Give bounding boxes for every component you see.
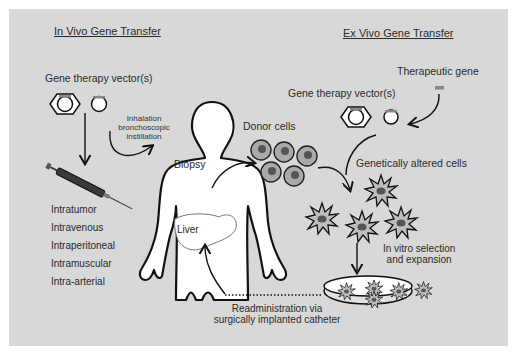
- altered-cells-icon: [306, 175, 417, 242]
- liposome-vector-icon: [92, 96, 107, 112]
- ex-vivo-vectors-label: Gene therapy vector(s): [288, 88, 395, 100]
- route-intraperitoneal: Intraperitoneal: [51, 240, 115, 251]
- ex-vivo-viral-vector-icon: [341, 107, 371, 127]
- inhalation-label: Inhalation bronchoscopic instillation: [118, 115, 170, 141]
- donor-cells-label: Donor cells: [243, 121, 296, 133]
- selection-label: In vitro selection and expansion: [383, 243, 455, 265]
- route-intramuscular: Intramuscular: [51, 258, 112, 269]
- readministration-label: Readministration via surgically implante…: [207, 303, 347, 325]
- liver-label: Liver: [177, 224, 199, 235]
- in-vivo-title: In Vivo Gene Transfer: [54, 25, 161, 37]
- route-intravenous: Intravenous: [51, 222, 103, 233]
- viral-vector-icon: [50, 94, 80, 114]
- gene-insertion-arrow: [410, 94, 439, 124]
- biopsy-label: Biopsy: [174, 159, 206, 171]
- ex-vivo-liposome-vector-icon: [384, 110, 398, 124]
- altered-cells-label: Genetically altered cells: [356, 158, 467, 170]
- in-vivo-vectors-label: Gene therapy vector(s): [45, 73, 152, 85]
- route-intratumor: Intratumor: [51, 204, 97, 215]
- therapeutic-gene-label: Therapeutic gene: [397, 66, 479, 78]
- ex-vivo-title: Ex Vivo Gene Transfer: [343, 27, 453, 39]
- route-intra-arterial: Intra-arterial: [51, 276, 105, 287]
- therapeutic-gene-icon: [435, 86, 444, 90]
- transfection-arrow: [318, 167, 350, 190]
